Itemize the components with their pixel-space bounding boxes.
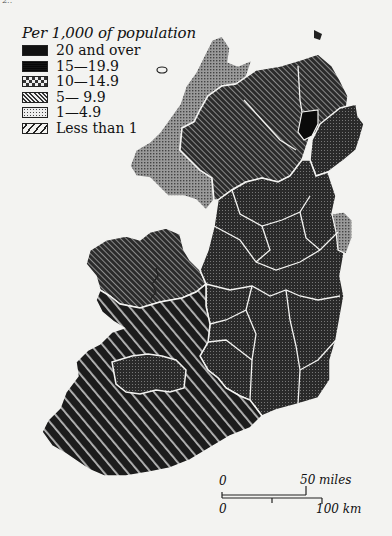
scale-miles-end: 50 miles: [300, 473, 351, 487]
scale-miles-start: 0: [219, 474, 227, 488]
scale-bar: [0, 0, 392, 536]
scale-km-end: 100 km: [316, 502, 361, 516]
scale-km-start: 0: [219, 502, 227, 516]
